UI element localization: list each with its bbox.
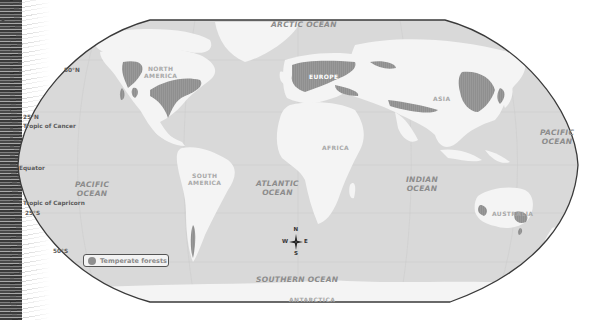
- antarctica: [60, 280, 560, 320]
- compass-w: W: [282, 238, 288, 244]
- compass-n: N: [294, 226, 299, 232]
- compass-e: E: [304, 238, 308, 244]
- temperate-forest-swatch-icon: [88, 257, 96, 265]
- world-map: [0, 0, 596, 320]
- map-legend: Temperate forests: [83, 254, 169, 267]
- compass-rose: N S W E: [284, 229, 308, 255]
- compass-s: S: [294, 250, 298, 256]
- legend-label: Temperate forests: [100, 257, 167, 265]
